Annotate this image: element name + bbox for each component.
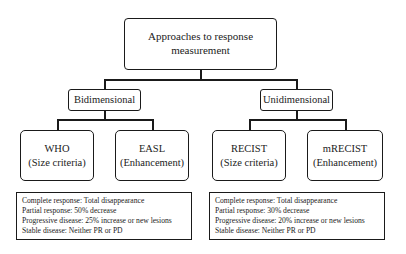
connector-uni-horizontal bbox=[249, 119, 346, 121]
root-title-line1: Approaches to response bbox=[148, 30, 253, 44]
criteria-complete-response: Complete response: Total disappearance bbox=[215, 196, 384, 206]
criteria-partial-response: Partial response: 30% decrease bbox=[215, 206, 384, 216]
criteria-box-bidimensional: Complete response: Total disappearance P… bbox=[16, 192, 192, 240]
connector-to-who bbox=[57, 119, 59, 130]
criteria-progressive-disease: Progressive disease: 20% increase or new… bbox=[215, 216, 384, 226]
connector-to-mrecist bbox=[345, 119, 347, 130]
criteria-stable-disease: Stable disease: Neither PR or PD bbox=[22, 226, 191, 236]
criteria-progressive-disease: Progressive disease: 25% increase or new… bbox=[22, 216, 191, 226]
node-bidimensional: Bidimensional bbox=[68, 89, 141, 111]
bidimensional-label: Bidimensional bbox=[74, 93, 135, 106]
criteria-stable-disease: Stable disease: Neither PR or PD bbox=[215, 226, 384, 236]
easl-basis: (Enhancement) bbox=[120, 156, 184, 169]
easl-name: EASL bbox=[139, 142, 165, 155]
who-name: WHO bbox=[44, 142, 69, 155]
recist-name: RECIST bbox=[231, 142, 267, 155]
connector-bi-horizontal bbox=[57, 119, 153, 121]
connector-to-unidimensional bbox=[296, 79, 298, 89]
who-basis: (Size criteria) bbox=[28, 156, 85, 169]
node-mrecist: mRECIST (Enhancement) bbox=[307, 130, 383, 181]
recist-basis: (Size criteria) bbox=[220, 156, 277, 169]
criteria-box-unidimensional: Complete response: Total disappearance P… bbox=[209, 192, 385, 240]
connector-to-bidimensional bbox=[104, 79, 106, 89]
unidimensional-label: Unidimensional bbox=[263, 93, 330, 106]
root-node-approaches: Approaches to response measurement bbox=[124, 18, 277, 70]
connector-to-recist bbox=[249, 119, 251, 130]
node-recist: RECIST (Size criteria) bbox=[212, 130, 286, 181]
node-who: WHO (Size criteria) bbox=[20, 130, 94, 181]
connector-root-horizontal bbox=[104, 79, 297, 81]
connector-to-easl bbox=[152, 119, 154, 130]
criteria-partial-response: Partial response: 50% decrease bbox=[22, 206, 191, 216]
mrecist-name: mRECIST bbox=[323, 142, 367, 155]
mrecist-basis: (Enhancement) bbox=[313, 156, 377, 169]
root-title-line2: measurement bbox=[171, 44, 230, 58]
node-unidimensional: Unidimensional bbox=[260, 89, 333, 111]
node-easl: EASL (Enhancement) bbox=[115, 130, 189, 181]
criteria-complete-response: Complete response: Total disappearance bbox=[22, 196, 191, 206]
